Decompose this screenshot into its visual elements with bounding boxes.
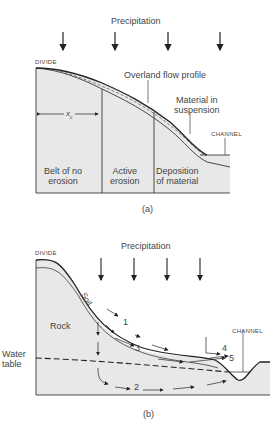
- flow-label-2: 2: [134, 383, 139, 393]
- flow-label-1: 1: [123, 318, 128, 328]
- zone-active-erosion: Activeerosion: [110, 167, 140, 187]
- channel-label-b: CHANNEL: [232, 328, 263, 335]
- precipitation-label-a: Precipitation: [111, 17, 161, 27]
- channel-label-a: CHANNEL: [211, 131, 242, 138]
- overland-flow-label: Overland flow profile: [124, 71, 206, 81]
- caption-b: (b): [143, 410, 154, 420]
- flow-label-4: 4: [222, 344, 227, 354]
- flow-label-5: 5: [229, 354, 234, 364]
- suspension-label: Material insuspension: [174, 96, 220, 116]
- zone-no-erosion: Belt of noerosion: [44, 167, 82, 187]
- flow-label-3: 3: [135, 344, 140, 354]
- zone-deposition: Depositionof material: [156, 167, 199, 187]
- precipitation-label-b: Precipitation: [121, 242, 171, 252]
- diagram-b: [36, 258, 270, 395]
- divide-label-b: DIVIDE: [35, 250, 57, 257]
- water-table-label: Watertable: [2, 350, 26, 370]
- caption-a: (a): [142, 205, 153, 215]
- xc-label: xc: [64, 110, 75, 120]
- rock-label: Rock: [50, 322, 71, 332]
- divide-label-a: DIVIDE: [35, 59, 57, 66]
